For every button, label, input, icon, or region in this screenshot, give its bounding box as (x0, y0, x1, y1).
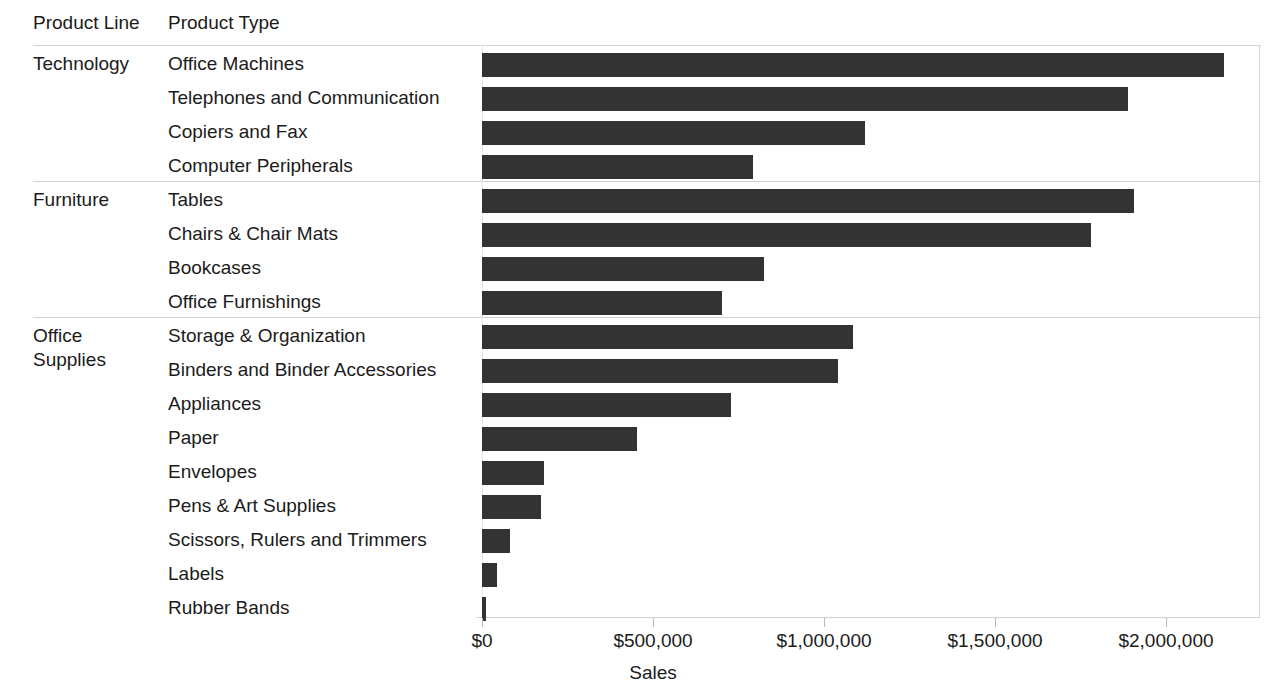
chart-row[interactable]: Envelopes (0, 456, 1288, 490)
row-label: Rubber Bands (168, 596, 289, 620)
group-divider (33, 317, 1261, 318)
row-label: Pens & Art Supplies (168, 494, 336, 518)
bar[interactable] (482, 223, 1091, 247)
row-label: Telephones and Communication (168, 86, 439, 110)
bar[interactable] (482, 189, 1134, 213)
row-label: Tables (168, 188, 223, 212)
row-label: Bookcases (168, 256, 261, 280)
bar[interactable] (482, 393, 731, 417)
chart-row[interactable]: Paper (0, 422, 1288, 456)
x-axis-tick (653, 618, 654, 627)
x-axis-tick-label: $2,000,000 (1118, 629, 1213, 653)
chart-row[interactable]: Storage & Organization (0, 320, 1288, 354)
bar[interactable] (482, 563, 497, 587)
x-axis-tick-label: $500,000 (613, 629, 692, 653)
row-label: Storage & Organization (168, 324, 366, 348)
bar[interactable] (482, 325, 853, 349)
bar[interactable] (482, 529, 510, 553)
chart-row[interactable]: Chairs & Chair Mats (0, 218, 1288, 252)
row-label: Office Machines (168, 52, 304, 76)
x-axis-tick (1166, 618, 1167, 627)
bar[interactable] (482, 359, 838, 383)
bar[interactable] (482, 155, 753, 179)
row-label: Chairs & Chair Mats (168, 222, 338, 246)
bar[interactable] (482, 87, 1128, 111)
x-axis: Sales $0$500,000$1,000,000$1,500,000$2,0… (0, 618, 1288, 696)
x-axis-tick-label: $1,500,000 (947, 629, 1042, 653)
column-header-product-type: Product Type (168, 12, 280, 34)
x-axis-title: Sales (0, 662, 1288, 684)
x-axis-title-text: Sales (629, 662, 677, 683)
row-label: Copiers and Fax (168, 120, 307, 144)
bar[interactable] (482, 461, 544, 485)
chart-row[interactable]: Bookcases (0, 252, 1288, 286)
row-label: Computer Peripherals (168, 154, 353, 178)
bar[interactable] (482, 53, 1224, 77)
bar[interactable] (482, 495, 541, 519)
row-label: Appliances (168, 392, 261, 416)
x-axis-tick (824, 618, 825, 627)
row-label: Scissors, Rulers and Trimmers (168, 528, 427, 552)
x-axis-tick (995, 618, 996, 627)
chart-row[interactable]: Computer Peripherals (0, 150, 1288, 184)
column-header-product-line: Product Line (33, 12, 140, 34)
group-divider (33, 181, 1261, 182)
chart-row[interactable]: Binders and Binder Accessories (0, 354, 1288, 388)
row-label: Binders and Binder Accessories (168, 358, 436, 382)
x-axis-tick (482, 618, 483, 627)
x-axis-tick-label: $0 (471, 629, 492, 653)
row-label: Envelopes (168, 460, 257, 484)
row-label: Labels (168, 562, 224, 586)
row-label: Office Furnishings (168, 290, 321, 314)
chart-row[interactable]: Office Furnishings (0, 286, 1288, 320)
chart-row[interactable]: Tables (0, 184, 1288, 218)
chart-row[interactable]: Office Machines (0, 48, 1288, 82)
row-label: Paper (168, 426, 219, 450)
bar[interactable] (482, 291, 722, 315)
chart-row[interactable]: Appliances (0, 388, 1288, 422)
chart-row[interactable]: Labels (0, 558, 1288, 592)
bar[interactable] (482, 121, 865, 145)
chart-row[interactable]: Scissors, Rulers and Trimmers (0, 524, 1288, 558)
chart-row[interactable]: Copiers and Fax (0, 116, 1288, 150)
x-axis-tick-label: $1,000,000 (776, 629, 871, 653)
chart-row[interactable]: Telephones and Communication (0, 82, 1288, 116)
bar[interactable] (482, 427, 637, 451)
sales-by-product-type-chart: Product Line Product Type TechnologyOffi… (0, 0, 1288, 696)
bar[interactable] (482, 257, 764, 281)
chart-row[interactable]: Pens & Art Supplies (0, 490, 1288, 524)
